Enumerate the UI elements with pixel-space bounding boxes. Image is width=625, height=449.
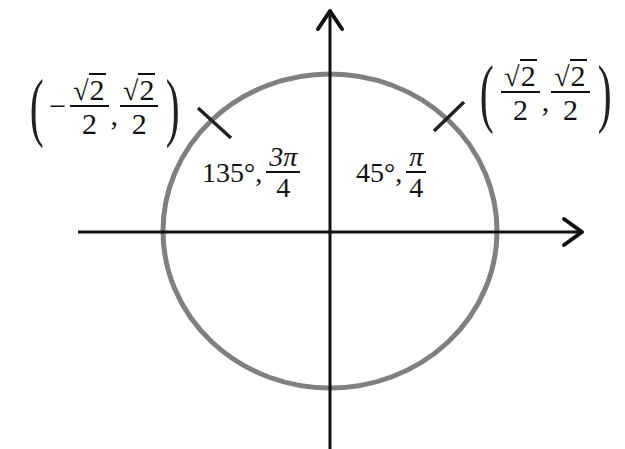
sqrt-icon: √	[73, 77, 88, 105]
comma: ,	[542, 84, 550, 118]
point-label-135: ( − √2 2 , √2 2 )	[24, 68, 186, 144]
y-coordinate-fraction: √2 2	[551, 59, 589, 126]
angle-degrees: 45°	[356, 157, 395, 189]
unit-circle-diagram: ( − √2 2 , √2 2 ) ( √2 2 , √2 2 ) 135° ,…	[0, 0, 625, 449]
open-paren: (	[30, 68, 44, 144]
angle-label-45: 45° , π 4	[356, 142, 428, 204]
sqrt-icon: √	[123, 77, 138, 105]
sqrt-icon: √	[504, 63, 519, 91]
angle-label-135: 135° , 3π 4	[202, 142, 302, 204]
close-paren: )	[166, 68, 180, 144]
negative-sign: −	[49, 89, 66, 123]
angle-radians-fraction: π 4	[406, 142, 426, 204]
x-coordinate-fraction: √2 2	[501, 59, 539, 126]
comma: ,	[255, 157, 262, 189]
tick-mark-135	[198, 108, 231, 138]
comma: ,	[395, 157, 402, 189]
y-coordinate-fraction: √2 2	[120, 73, 158, 140]
open-paren: (	[480, 54, 494, 130]
point-label-45: ( √2 2 , √2 2 )	[474, 54, 617, 130]
x-coordinate-fraction: √2 2	[70, 73, 108, 140]
angle-degrees: 135°	[202, 157, 255, 189]
comma: ,	[111, 98, 119, 132]
close-paren: )	[597, 54, 611, 130]
sqrt-icon: √	[554, 63, 569, 91]
tick-mark-45	[434, 102, 464, 131]
angle-radians-fraction: 3π 4	[266, 142, 300, 204]
